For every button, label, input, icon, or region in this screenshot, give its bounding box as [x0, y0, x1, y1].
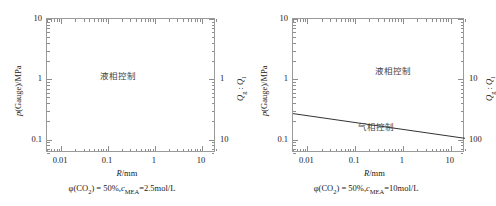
y-minor-tick [212, 153, 215, 154]
x-minor-tick [417, 19, 418, 22]
x-minor-tick [89, 19, 90, 22]
y-major-tick [209, 79, 214, 80]
x-minor-tick [191, 149, 192, 152]
y-minor-tick [47, 89, 50, 90]
x-minor-tick [440, 19, 441, 22]
x-minor-tick [448, 19, 449, 22]
x-major-tick [61, 19, 62, 24]
x-major-tick [108, 146, 109, 151]
x-minor-tick [51, 149, 52, 152]
x-minor-tick [465, 149, 466, 152]
x-minor-tick [297, 149, 298, 152]
y-major-tick [458, 140, 463, 141]
y-minor-tick [461, 32, 464, 33]
x-minor-tick [303, 149, 304, 152]
x-minor-tick [305, 149, 306, 152]
y-minor-tick [47, 153, 50, 154]
y-minor-tick [293, 25, 296, 26]
x-minor-tick [148, 149, 149, 152]
x-minor-tick [330, 149, 331, 152]
x-minor-tick [300, 149, 301, 152]
y-minor-tick [212, 93, 215, 94]
x-major-tick [61, 146, 62, 151]
y-minor-tick [212, 142, 215, 143]
x-minor-tick [336, 149, 337, 152]
x-minor-tick [153, 149, 154, 152]
regime-boundary-line [293, 19, 465, 153]
x-minor-tick [197, 149, 198, 152]
x-minor-tick [57, 19, 58, 22]
y-minor-tick [47, 93, 50, 94]
x-tick-label: 0.1 [91, 156, 123, 165]
y-minor-tick [461, 51, 464, 52]
panel-right: p(Gauge)/MPa Qg : Ql R/mm 液相控制 气相控制 φ(CO… [244, 0, 488, 206]
x-minor-tick [369, 19, 370, 22]
y-minor-tick [461, 145, 464, 146]
y-minor-tick [47, 103, 50, 104]
x-major-tick [307, 19, 308, 24]
y-minor-tick [461, 121, 464, 122]
y-minor-tick [212, 145, 215, 146]
x-minor-tick [84, 149, 85, 152]
x-minor-tick [348, 19, 349, 22]
y-minor-tick [293, 43, 296, 44]
panel-caption-right: φ(CO2) = 50%,cMEA=10mol/L [244, 183, 488, 195]
x-minor-tick [392, 19, 393, 22]
x-major-tick [155, 19, 156, 24]
y-minor-tick [212, 61, 215, 62]
y-minor-tick [212, 25, 215, 26]
x-minor-tick [440, 149, 441, 152]
y-major-tick [293, 19, 298, 20]
y-major-tick [458, 19, 463, 20]
y2-axis-title-right: Qg : Ql [484, 77, 496, 101]
y-minor-tick [461, 111, 464, 112]
y-minor-tick [461, 89, 464, 90]
x-minor-tick [106, 149, 107, 152]
x-minor-tick [98, 149, 99, 152]
x-minor-tick [436, 19, 437, 22]
x-minor-tick [130, 19, 131, 22]
y-minor-tick [47, 28, 50, 29]
x-minor-tick [378, 19, 379, 22]
x-minor-tick [384, 19, 385, 22]
y-minor-tick [293, 121, 296, 122]
y-minor-tick [212, 111, 215, 112]
y-minor-tick [212, 103, 215, 104]
y-minor-tick [293, 111, 296, 112]
x-minor-tick [150, 149, 151, 152]
y-minor-tick [461, 61, 464, 62]
y-minor-tick [461, 103, 464, 104]
y-minor-tick [47, 142, 50, 143]
y-minor-tick [461, 25, 464, 26]
x-minor-tick [177, 19, 178, 22]
x-minor-tick [348, 149, 349, 152]
x-major-tick [403, 19, 404, 24]
x-minor-tick [94, 149, 95, 152]
x-tick-label: 0.01 [44, 156, 76, 165]
x-minor-tick [54, 19, 55, 22]
y-minor-tick [293, 97, 296, 98]
x-minor-tick [303, 19, 304, 22]
y2-tick-label: 1 [220, 74, 224, 83]
x-major-tick [155, 146, 156, 151]
plot-area-left [46, 18, 215, 152]
y-minor-tick [293, 61, 296, 62]
y-major-tick [47, 140, 52, 141]
x-minor-tick [195, 149, 196, 152]
y-minor-tick [212, 28, 215, 29]
x-minor-tick [341, 19, 342, 22]
x-minor-tick [169, 149, 170, 152]
y-major-tick [209, 19, 214, 20]
x-major-tick [355, 146, 356, 151]
x-tick-label: 1 [386, 156, 418, 165]
x-minor-tick [395, 19, 396, 22]
x-minor-tick [191, 19, 192, 22]
x-minor-tick [200, 149, 201, 152]
y-minor-tick [47, 43, 50, 44]
y-minor-tick [47, 85, 50, 86]
x-minor-tick [89, 149, 90, 152]
x-minor-tick [401, 149, 402, 152]
x-minor-tick [350, 149, 351, 152]
x-major-tick [355, 19, 356, 24]
x-minor-tick [75, 19, 76, 22]
